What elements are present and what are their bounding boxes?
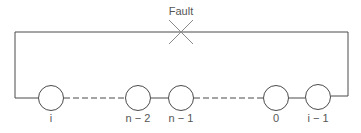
node-label-i: i (50, 112, 52, 124)
fault-label: Fault (169, 5, 193, 17)
node-label-n-1: n − 1 (169, 112, 194, 124)
node-label-n-2: n − 2 (126, 112, 151, 124)
node-0 (264, 86, 289, 111)
node-n-1 (169, 86, 194, 111)
ring-fault-diagram: i n − 2 n − 1 0 i − 1 Fault (0, 0, 361, 133)
node-label-0: 0 (273, 112, 279, 124)
node-n-2 (126, 86, 151, 111)
node-i-1 (306, 85, 331, 110)
node-i (39, 86, 64, 111)
node-label-i-1: i − 1 (307, 112, 328, 124)
